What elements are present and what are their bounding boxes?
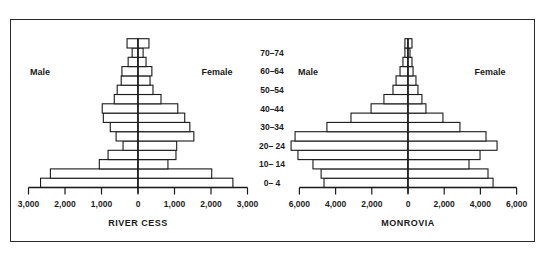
- bar-male-35-39: [351, 113, 408, 122]
- age-group-label: 30–34: [260, 122, 284, 132]
- bar-male-40-44: [102, 104, 138, 113]
- x-tick-label: 3,000: [237, 199, 259, 209]
- x-tick-label: 0: [406, 199, 411, 209]
- male-label: Male: [30, 67, 50, 77]
- bar-male-55-59: [396, 76, 408, 85]
- bar-female-0-4: [408, 178, 493, 187]
- age-group-label: 20– 24: [259, 141, 285, 151]
- x-tick-label: 2,000: [54, 199, 76, 209]
- bar-male-30-34: [327, 122, 408, 131]
- age-group-label: 10– 14: [259, 159, 285, 169]
- bar-male-5-9: [50, 169, 138, 178]
- x-tick-label: 0: [136, 199, 141, 209]
- bar-male-5-9: [321, 169, 408, 178]
- bar-male-65-69: [403, 57, 408, 66]
- bar-male-65-69: [128, 57, 138, 66]
- bar-male-20-24: [291, 141, 408, 150]
- bar-male-50-54: [117, 85, 138, 94]
- population-pyramids: 3,0002,0001,00001,0002,0003,000RIVER CES…: [0, 0, 552, 262]
- bar-male-40-44: [371, 104, 408, 113]
- bar-male-35-39: [103, 113, 138, 122]
- x-tick-label: 4,000: [325, 199, 347, 209]
- bar-female-25-29: [408, 132, 486, 141]
- bar-female-35-39: [408, 113, 443, 122]
- bar-female-30-34: [408, 122, 460, 131]
- bar-male-15-19: [298, 150, 408, 159]
- bar-male-45-49: [114, 95, 138, 104]
- bar-male-60-64: [400, 67, 408, 76]
- age-group-label: 60–64: [260, 66, 284, 76]
- bar-female-15-19: [408, 150, 480, 159]
- bar-male-0-4: [41, 178, 138, 187]
- bar-female-5-9: [408, 169, 488, 178]
- bar-male-25-29: [116, 132, 138, 141]
- bar-female-40-44: [408, 104, 426, 113]
- chart-title: RIVER CESS: [108, 218, 168, 228]
- male-label: Male: [298, 67, 318, 77]
- bar-female-20-24: [138, 141, 177, 150]
- bar-female-45-49: [408, 95, 422, 104]
- bar-female-55-59: [138, 76, 150, 85]
- age-group-label: 50–54: [260, 85, 284, 95]
- female-label: Female: [474, 67, 505, 77]
- bar-female-30-34: [138, 122, 190, 131]
- chart-title: MONROVIA: [381, 218, 435, 228]
- bar-female-70-74: [138, 48, 143, 57]
- bar-male-10-14: [99, 160, 138, 169]
- bar-female-35-39: [138, 113, 185, 122]
- age-group-label: 70–74: [260, 48, 284, 58]
- bar-male-60-64: [122, 67, 138, 76]
- bar-female-0-4: [138, 178, 233, 187]
- x-tick-label: 1,000: [91, 199, 113, 209]
- bar-male-45-49: [384, 95, 408, 104]
- bar-male-75+: [127, 39, 138, 48]
- bar-female-40-44: [138, 104, 178, 113]
- bar-female-60-64: [408, 67, 413, 76]
- bar-female-75+: [138, 39, 149, 48]
- bar-male-20-24: [123, 141, 138, 150]
- bar-male-70-74: [132, 48, 138, 57]
- bar-female-50-54: [138, 85, 153, 94]
- x-tick-label: 6,000: [289, 199, 311, 209]
- x-tick-label: 6,000: [506, 199, 528, 209]
- x-tick-label: 1,000: [164, 199, 186, 209]
- bar-male-50-54: [393, 85, 408, 94]
- bar-female-55-59: [408, 76, 416, 85]
- bar-male-25-29: [295, 132, 408, 141]
- bar-male-30-34: [110, 122, 138, 131]
- bar-male-55-59: [121, 76, 138, 85]
- bar-female-5-9: [138, 169, 212, 178]
- x-tick-label: 2,000: [434, 199, 456, 209]
- bar-female-60-64: [138, 67, 152, 76]
- bar-female-50-54: [408, 85, 418, 94]
- x-tick-label: 2,000: [200, 199, 222, 209]
- bar-male-15-19: [108, 150, 138, 159]
- x-tick-label: 2,000: [361, 199, 383, 209]
- bar-male-10-14: [313, 160, 408, 169]
- bar-male-0-4: [324, 178, 408, 187]
- x-tick-label: 4,000: [470, 199, 492, 209]
- bar-female-25-29: [138, 132, 194, 141]
- bar-female-15-19: [138, 150, 176, 159]
- female-label: Female: [201, 67, 232, 77]
- bar-female-45-49: [138, 95, 161, 104]
- age-group-label: 0– 4: [264, 178, 281, 188]
- age-group-label: 40–44: [260, 104, 284, 114]
- bar-female-10-14: [408, 160, 469, 169]
- x-tick-label: 3,000: [18, 199, 40, 209]
- bar-female-65-69: [138, 57, 146, 66]
- bar-female-20-24: [408, 141, 497, 150]
- bar-female-10-14: [138, 160, 168, 169]
